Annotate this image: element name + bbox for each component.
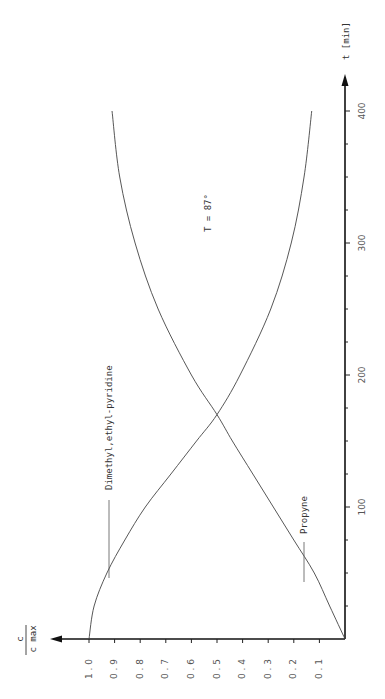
series-line-propyne xyxy=(112,111,345,639)
c-ticks: 0 . 10 . 20 . 30 . 40 . 50 . 60 . 70 . 8… xyxy=(84,639,324,679)
labels: t [min] c c max T = 87° Dimethyl,ethyl-p… xyxy=(15,22,351,655)
t-ticks: 100200300400 xyxy=(345,102,367,606)
c-tick-label: 0 . 9 xyxy=(109,659,119,679)
c-tick-label: 1 . 0 xyxy=(84,659,94,679)
c-tick-label: 0 . 7 xyxy=(160,659,170,679)
t-axis-arrow xyxy=(342,74,349,86)
c-tick-label: 0 . 6 xyxy=(186,659,196,679)
chart: 100200300400 0 . 10 . 20 . 30 . 40 . 50 … xyxy=(0,0,385,699)
t-tick-label: 100 xyxy=(357,498,367,515)
series-label-dimethyl-ethyl-pyridine: Dimethyl,ethyl-pyridine xyxy=(104,365,114,490)
y-axis-label-numerator: c xyxy=(15,636,25,641)
series-label-propyne: Propyne xyxy=(299,496,309,534)
c-tick-label: 0 . 4 xyxy=(237,659,247,679)
t-tick-label: 200 xyxy=(357,366,367,383)
x-axis-label: t [min] xyxy=(341,22,351,60)
c-tick-label: 0 . 5 xyxy=(212,659,222,679)
c-axis-arrow xyxy=(50,636,62,643)
y-axis-label-denominator: c max xyxy=(28,625,38,653)
c-tick-label: 0 . 3 xyxy=(263,659,273,679)
t-tick-label: 300 xyxy=(357,234,367,251)
temperature-annotation: T = 87° xyxy=(203,194,213,232)
c-tick-label: 0 . 2 xyxy=(288,659,298,679)
c-tick-label: 0 . 8 xyxy=(135,659,145,679)
c-tick-label: 0 . 1 xyxy=(314,659,324,679)
curves xyxy=(89,111,345,639)
t-tick-label: 400 xyxy=(357,102,367,119)
